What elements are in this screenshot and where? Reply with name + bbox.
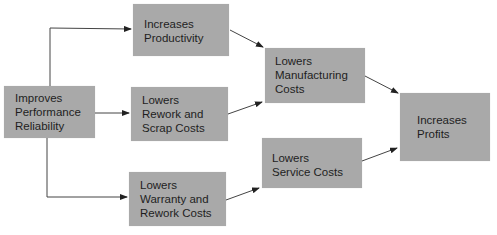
arrow-manufacturing-to-profits: [365, 76, 398, 93]
node-label: Increases Profits: [417, 113, 490, 141]
node-increases-profits: Increases Profits: [400, 93, 490, 161]
node-label: Improves Performance Reliability: [15, 91, 95, 133]
node-improves-performance-reliability: Improves Performance Reliability: [4, 86, 95, 138]
node-label: Lowers Rework and Scrap Costs: [142, 93, 228, 135]
node-label: Lowers Warranty and Rework Costs: [140, 178, 226, 220]
arrow-warranty-to-service: [226, 188, 259, 200]
node-increases-productivity: Increases Productivity: [133, 4, 229, 56]
flowchart-canvas: Improves Performance Reliability Increas…: [0, 0, 497, 235]
arrow-rework-scrap-to-manufacturing: [228, 102, 262, 114]
node-label: Increases Productivity: [144, 17, 229, 45]
node-lowers-manufacturing-costs: Lowers Manufacturing Costs: [265, 48, 365, 103]
arrow-service-to-profits: [362, 148, 397, 161]
arrow-reliability-to-warranty: [47, 138, 127, 197]
node-label: Lowers Service Costs: [272, 151, 362, 179]
node-lowers-service-costs: Lowers Service Costs: [262, 138, 362, 188]
arrow-productivity-to-manufacturing: [230, 30, 263, 47]
node-lowers-warranty-rework-costs: Lowers Warranty and Rework Costs: [129, 172, 226, 226]
node-lowers-rework-scrap-costs: Lowers Rework and Scrap Costs: [131, 87, 228, 141]
node-label: Lowers Manufacturing Costs: [275, 54, 365, 96]
arrow-reliability-to-productivity: [50, 28, 131, 86]
